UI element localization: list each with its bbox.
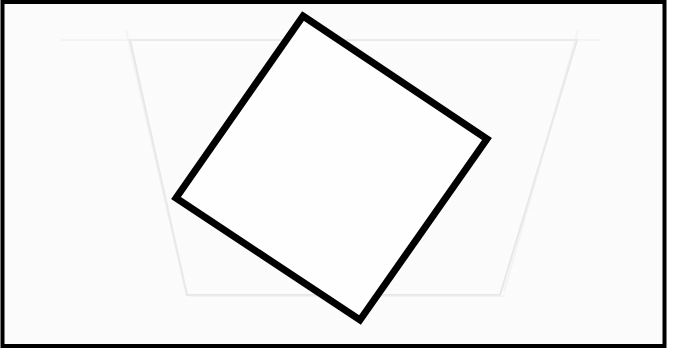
figure-canvas: [0, 0, 673, 353]
geometry-figure-svg: [0, 0, 673, 353]
